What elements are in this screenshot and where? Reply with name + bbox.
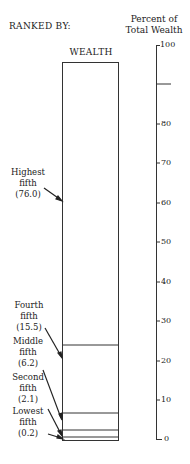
label-highest-fifth: Highest fifth (76.0) — [3, 167, 53, 200]
tick-0: 0 — [164, 434, 169, 443]
wealth-bar — [63, 63, 119, 441]
label-lowest-fifth: Lowest fifth (0.2) — [3, 406, 53, 439]
tick-70: 70 — [161, 158, 171, 167]
tick-80: 80 — [161, 119, 171, 128]
label-middle-fifth: Middle fifth (6.2) — [3, 336, 53, 369]
label-second-fifth: Second fifth (2.1) — [3, 372, 53, 405]
label-fourth-fifth: Fourth fifth (15.5) — [4, 300, 54, 333]
tick-20: 20 — [161, 356, 171, 365]
tick-100: 100 — [160, 40, 175, 49]
tick-10: 10 — [161, 395, 171, 404]
tick-40: 40 — [161, 277, 171, 286]
tick-50: 50 — [161, 237, 171, 246]
tick-60: 60 — [161, 198, 171, 207]
tick-30: 30 — [161, 316, 171, 325]
